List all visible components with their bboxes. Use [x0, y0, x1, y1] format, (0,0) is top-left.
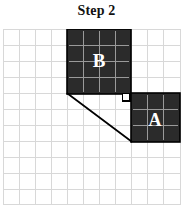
square-a-label: A [139, 111, 171, 129]
figure-container: Step 2 [0, 0, 193, 217]
grid-diagram: B A [3, 29, 181, 205]
page-title: Step 2 [0, 2, 193, 20]
square-b-label: B [83, 51, 115, 70]
right-angle-marker-icon [123, 94, 131, 102]
